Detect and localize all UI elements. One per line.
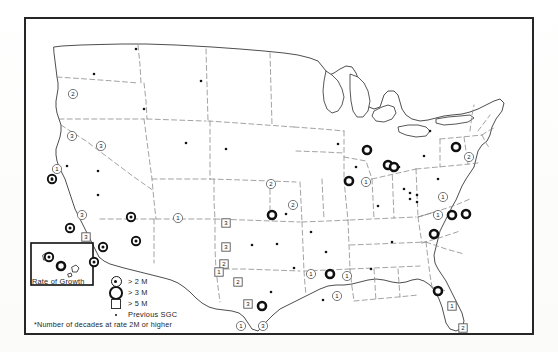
previous-sgc-dot	[225, 148, 228, 151]
previous-sgc-dot	[403, 188, 406, 191]
growth-marker: 2	[68, 89, 77, 98]
growth-marker: 1	[306, 269, 315, 278]
thick-ring-circle-icon	[268, 211, 276, 219]
map-frame-border: .coast { fill:#ffffff; stroke:#3a3a3a; s…	[24, 17, 534, 335]
previous-sgc-dot	[293, 267, 296, 270]
legend-row-2m: Rate of Growth > 2 M	[32, 276, 222, 287]
growth-marker: 1	[52, 164, 61, 173]
legend-title: Rate of Growth	[32, 278, 108, 286]
open-square-icon	[108, 299, 124, 309]
previous-sgc-dot	[135, 48, 138, 51]
growth-marker: 2	[464, 152, 473, 161]
marker-center-dot	[135, 240, 138, 243]
marker-center-dot	[93, 261, 96, 264]
thick-ring-circle-icon	[363, 146, 371, 154]
growth-marker: 1	[448, 302, 456, 310]
growth-marker: 1	[215, 268, 223, 276]
thick-ring-circle-icon	[448, 211, 456, 219]
growth-marker	[452, 143, 460, 151]
growth-marker	[345, 177, 353, 185]
growth-marker: 3	[96, 141, 105, 150]
legend-footnote: *Number of decades at rate 2M or higher	[32, 321, 222, 329]
map-legend: Rate of Growth > 2 M > 3 M > 5 M Previou…	[32, 276, 222, 329]
growth-marker: 2	[288, 200, 297, 209]
previous-sgc-dot	[93, 73, 96, 76]
thick-ring-circle-icon	[434, 287, 442, 295]
previous-sgc-dot	[325, 251, 328, 254]
marker-center-dot	[102, 246, 105, 249]
thick-ring-circle-icon	[452, 143, 460, 151]
legend-row-sgc: Previous SGC	[32, 309, 222, 320]
growth-marker: 3	[82, 233, 90, 241]
thick-ring-circle-icon	[326, 270, 334, 278]
growth-marker	[390, 163, 398, 171]
previous-sgc-dot	[66, 165, 69, 168]
growth-marker: 1	[342, 271, 351, 280]
scanned-map-page: .coast { fill:#ffffff; stroke:#3a3a3a; s…	[0, 0, 558, 352]
previous-sgc-dot	[337, 143, 340, 146]
thick-ring-circle-icon	[390, 163, 398, 171]
previous-sgc-dot	[416, 201, 419, 204]
growth-marker: 1	[433, 210, 442, 219]
growth-marker: 3	[67, 131, 76, 140]
growth-marker: 1	[332, 291, 341, 300]
growth-marker	[326, 270, 334, 278]
previous-sgc-dot	[391, 241, 394, 244]
thick-ring-circle-icon	[345, 177, 353, 185]
previous-sgc-dot	[409, 198, 412, 201]
growth-marker	[448, 211, 456, 219]
growth-marker: 1	[48, 175, 56, 183]
growth-marker	[127, 213, 135, 221]
previous-sgc-dot	[97, 170, 100, 173]
growth-marker: 3	[222, 243, 230, 251]
previous-sgc-dot	[97, 194, 100, 197]
growth-marker: 3	[244, 300, 252, 308]
growth-marker	[90, 258, 98, 266]
growth-marker: 3	[258, 321, 267, 330]
thick-ring-circle-icon	[258, 302, 266, 310]
previous-sgc-dot	[409, 192, 412, 195]
thick-ring-circle-icon	[462, 210, 470, 218]
thick-ring-circle-icon	[108, 286, 124, 300]
growth-marker	[434, 287, 442, 295]
growth-marker	[430, 230, 438, 238]
growth-marker	[45, 253, 53, 261]
growth-marker	[99, 243, 107, 251]
thick-ring-circle-icon	[430, 230, 438, 238]
previous-sgc-dot	[423, 155, 426, 158]
previous-sgc-dot	[416, 194, 419, 197]
previous-sgc-dot	[377, 205, 380, 208]
previous-sgc-dot	[429, 130, 432, 133]
growth-marker: 1	[361, 177, 370, 186]
previous-sgc-dot	[251, 244, 254, 247]
growth-marker: 2	[459, 324, 467, 332]
growth-marker	[363, 146, 371, 154]
growth-marker: 2	[220, 260, 228, 268]
legend-row-5m: > 5 M	[32, 298, 222, 309]
marker-center-dot	[69, 227, 72, 230]
marker-center-dot	[48, 256, 51, 259]
growth-marker: 1	[438, 192, 447, 201]
growth-marker	[268, 211, 276, 219]
thick-ring-circle-icon	[57, 262, 65, 270]
previous-sgc-dot	[437, 178, 440, 181]
legend-row-3m: > 3 M	[32, 287, 222, 298]
previous-sgc-dot	[322, 299, 325, 302]
previous-sgc-dot	[143, 108, 146, 111]
marker-center-dot	[130, 216, 133, 219]
small-dot-icon	[108, 314, 124, 317]
growth-marker: 3	[77, 210, 86, 219]
legend-label-5m: > 5 M	[124, 300, 148, 308]
growth-marker: 3	[222, 219, 230, 227]
legend-label-2m: > 2 M	[124, 278, 148, 286]
previous-sgc-dot	[370, 268, 373, 271]
growth-marker: 1	[236, 321, 245, 330]
growth-marker	[66, 224, 74, 232]
growth-marker	[258, 302, 266, 310]
previous-sgc-dot	[310, 231, 313, 234]
growth-marker	[462, 210, 470, 218]
previous-sgc-dot	[355, 166, 358, 169]
previous-sgc-dot	[276, 243, 279, 246]
legend-label-sgc: Previous SGC	[124, 311, 177, 319]
previous-sgc-dot	[185, 142, 188, 145]
